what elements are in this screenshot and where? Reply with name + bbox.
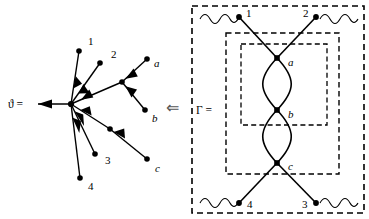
- tree-label-4: 4: [88, 180, 94, 192]
- tree-node-hub-ab: [119, 79, 125, 85]
- tree-node-4: [77, 175, 83, 181]
- graph-external-node-4: [236, 200, 242, 206]
- graph-label-a: a: [288, 56, 294, 68]
- tree-node-root: [68, 101, 74, 107]
- root-edge-arrowhead: [38, 100, 52, 109]
- right-panel-graph: Γ =: [192, 6, 364, 213]
- top-left-wave-leg: [200, 15, 238, 24]
- edge-b-to-hub: [122, 82, 145, 110]
- graph-label-4: 4: [247, 198, 253, 210]
- tree-label-1: 1: [88, 35, 94, 47]
- graph-label-3: 3: [302, 198, 308, 210]
- tree-label-a: a: [154, 57, 160, 69]
- bottom-left-wave-leg: [200, 199, 238, 208]
- leg-4-to-c: [239, 163, 277, 203]
- tree-node-hub-c: [107, 126, 113, 132]
- gamma-equals-label: Γ =: [196, 104, 212, 116]
- tree-node-3: [92, 151, 98, 157]
- leg-2-to-a: [277, 17, 316, 58]
- edge-b-arrowhead: [126, 86, 138, 97]
- top-right-wave-leg: [320, 15, 358, 24]
- graph-external-node-1: [236, 14, 242, 20]
- graph-label-2: 2: [303, 7, 309, 19]
- tree-node-1: [76, 48, 82, 54]
- tree-node-a: [144, 56, 150, 62]
- leg-1-to-a: [239, 17, 277, 58]
- figure-root: ϑ =: [0, 0, 369, 219]
- graph-label-c: c: [288, 160, 293, 172]
- edge-c-to-hub: [110, 129, 147, 160]
- tree-node-2: [97, 60, 103, 66]
- tree-label-3: 3: [105, 154, 111, 166]
- graph-vertex-b: [274, 107, 280, 113]
- implies-left-arrow-icon: ⇐: [166, 99, 179, 116]
- graph-external-node-2: [313, 14, 319, 20]
- root-outgoing-edge: [38, 100, 71, 109]
- left-panel-tree: ϑ =: [8, 35, 160, 192]
- graph-external-node-3: [313, 200, 319, 206]
- graph-vertex-a: [274, 55, 280, 61]
- figure-canvas: ϑ =: [0, 0, 369, 219]
- graph-label-1: 1: [246, 7, 252, 19]
- edge-a-to-hub: [122, 59, 147, 82]
- tree-node-c: [144, 156, 150, 162]
- tree-label-c: c: [155, 162, 160, 174]
- tree-label-b: b: [152, 112, 158, 124]
- tree-node-b: [142, 107, 148, 113]
- graph-vertex-c: [274, 160, 280, 166]
- leg-3-to-c: [277, 163, 316, 203]
- inner-dashed-box: [241, 44, 327, 125]
- bottom-right-wave-leg: [320, 199, 358, 208]
- loop-bc-left-arc: [263, 110, 277, 163]
- theta-equals-label: ϑ =: [8, 98, 23, 110]
- loop-ab-left-arc: [263, 58, 277, 110]
- graph-label-b: b: [288, 108, 294, 120]
- tree-label-2: 2: [111, 48, 117, 60]
